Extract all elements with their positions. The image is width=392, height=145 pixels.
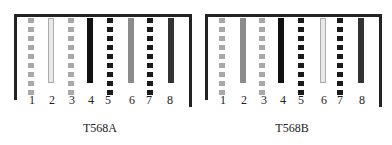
pin-label: 5 (102, 93, 114, 108)
wire-stripe (337, 54, 343, 59)
wire-stripe (107, 27, 113, 32)
wire-stripe (147, 63, 153, 68)
wire-stripe (147, 18, 153, 23)
wire-stripe (298, 72, 304, 77)
wire-stripe (219, 36, 225, 41)
wire-stripe (147, 45, 153, 50)
wire-stripe (68, 18, 74, 23)
t568b-diagram: 12345678 T568B (196, 0, 392, 145)
diagram-caption: T568A (50, 121, 150, 136)
wire-stripe (28, 18, 34, 23)
wire-stripe (298, 27, 304, 32)
wire-stripe (147, 81, 153, 86)
pin-label: 1 (26, 93, 38, 108)
wire-pin-4 (278, 18, 284, 83)
wire-stripe (28, 81, 34, 86)
wire-stripe (337, 81, 343, 86)
wire-stripe (28, 27, 34, 32)
wire-stripe (298, 18, 304, 23)
wire-pin-7 (147, 18, 153, 83)
wire-stripe (107, 45, 113, 50)
wire-stripe (147, 54, 153, 59)
wire-stripe (259, 54, 265, 59)
wire-stripe (28, 54, 34, 59)
wire-stripe (337, 36, 343, 41)
wire-stripe (219, 18, 225, 23)
wire-stripe (298, 45, 304, 50)
wire-stripe (259, 63, 265, 68)
wire-stripe (107, 81, 113, 86)
wire-stripe (68, 81, 74, 86)
pin-label: 7 (334, 93, 346, 108)
wire-stripe (147, 72, 153, 77)
wire-stripe (298, 63, 304, 68)
wire-stripe (337, 45, 343, 50)
wire-stripe (68, 36, 74, 41)
connector-frame-top (15, 14, 191, 17)
pin-label: 2 (238, 93, 250, 108)
wire-stripe (68, 54, 74, 59)
wire-stripe (298, 54, 304, 59)
wire-stripe (219, 54, 225, 59)
pin-label: 6 (318, 93, 330, 108)
wire-pin-2 (48, 18, 54, 83)
connector-frame-right (189, 14, 192, 107)
wire-stripe (68, 27, 74, 32)
wire-stripe (219, 63, 225, 68)
connector-frame-left (14, 14, 17, 100)
pin-label: 7 (143, 93, 155, 108)
connector-frame-top (206, 14, 381, 17)
wire-stripe (337, 63, 343, 68)
wire-pin-5 (298, 18, 304, 83)
wire-stripe (337, 27, 343, 32)
wire-pin-1 (28, 18, 34, 83)
pin-label: 8 (356, 93, 368, 108)
wire-stripe (259, 45, 265, 50)
connector-frame-left (205, 14, 208, 100)
wire-pin-5 (107, 18, 113, 83)
wire-stripe (28, 63, 34, 68)
wire-pin-4 (87, 18, 93, 83)
diagram-caption: T568B (242, 121, 342, 136)
wire-stripe (259, 36, 265, 41)
pin-label: 5 (295, 93, 307, 108)
pin-label: 8 (164, 93, 176, 108)
wire-pin-8 (358, 18, 364, 83)
wire-stripe (107, 72, 113, 77)
wire-stripe (68, 72, 74, 77)
wire-stripe (107, 36, 113, 41)
wire-stripe (68, 63, 74, 68)
wire-stripe (107, 18, 113, 23)
wire-stripe (298, 81, 304, 86)
wire-stripe (259, 72, 265, 77)
wire-stripe (28, 72, 34, 77)
wire-stripe (259, 81, 265, 86)
wire-stripe (219, 81, 225, 86)
wire-pin-3 (259, 18, 265, 83)
pin-label: 4 (85, 93, 97, 108)
wire-stripe (337, 18, 343, 23)
connector-frame-right (379, 14, 382, 107)
wire-pin-8 (168, 18, 174, 83)
wire-pin-2 (240, 18, 246, 83)
wire-stripe (219, 72, 225, 77)
wire-pin-6 (128, 18, 134, 83)
pin-label: 6 (126, 93, 138, 108)
wire-stripe (219, 27, 225, 32)
wire-stripe (259, 18, 265, 23)
pin-label: 2 (46, 93, 58, 108)
wire-stripe (298, 36, 304, 41)
wire-stripe (28, 36, 34, 41)
wire-stripe (259, 27, 265, 32)
wire-pin-1 (219, 18, 225, 83)
t568a-diagram: 12345678 T568A (0, 0, 196, 145)
wire-stripe (219, 45, 225, 50)
wire-stripe (147, 36, 153, 41)
wire-pin-3 (68, 18, 74, 83)
wire-stripe (107, 54, 113, 59)
wire-stripe (28, 45, 34, 50)
wire-pin-7 (337, 18, 343, 83)
wire-stripe (107, 63, 113, 68)
pin-label: 3 (66, 93, 78, 108)
pin-label: 3 (258, 93, 270, 108)
